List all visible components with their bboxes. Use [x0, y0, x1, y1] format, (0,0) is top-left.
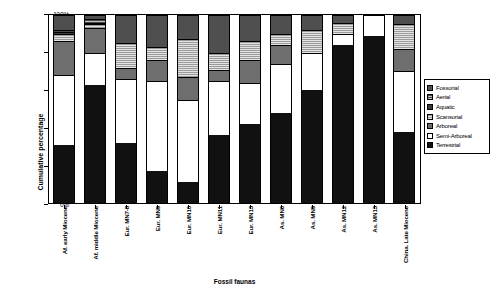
bar-segment[interactable] [147, 81, 167, 171]
bar-segment[interactable] [116, 143, 136, 203]
bar-segment[interactable] [147, 171, 167, 203]
bar-segment[interactable] [85, 19, 105, 23]
stacked-bar[interactable] [115, 15, 137, 203]
bar-segment[interactable] [116, 15, 136, 43]
bar-segment[interactable] [271, 64, 291, 113]
legend-swatch-icon [427, 94, 433, 100]
stacked-bar[interactable] [146, 15, 168, 203]
bar-segment[interactable] [178, 77, 198, 100]
x-axis-tick-label: As. MN9 [309, 206, 316, 229]
bar-segment[interactable] [333, 34, 353, 45]
bar-slot [363, 15, 385, 203]
stacked-bar[interactable] [301, 15, 323, 203]
legend-item[interactable]: Scansorial [427, 112, 486, 122]
stacked-bar[interactable] [53, 15, 75, 203]
bar-segment[interactable] [116, 79, 136, 143]
x-axis-tick-slot: Eur. MN7-8 [115, 206, 137, 274]
legend-label: Semi-Arboreal [436, 133, 472, 139]
bar-segment[interactable] [54, 30, 74, 32]
stacked-bar[interactable] [239, 15, 261, 203]
stacked-bar[interactable] [363, 15, 385, 203]
bar-segment[interactable] [271, 113, 291, 203]
bar-segment[interactable] [302, 53, 322, 91]
legend-item[interactable]: Terrestrial [427, 141, 486, 151]
x-axis-tick-slot: Eur. MN9 [146, 206, 168, 274]
stacked-bar[interactable] [270, 15, 292, 203]
x-axis-tick-label: China. Late Miocene [402, 206, 409, 263]
bar-segment[interactable] [364, 36, 384, 203]
bar-segment[interactable] [333, 45, 353, 203]
bar-segment[interactable] [54, 41, 74, 75]
bar-segment[interactable] [302, 30, 322, 53]
bar-segment[interactable] [394, 15, 414, 24]
bar-segment[interactable] [394, 49, 414, 72]
bar-segment[interactable] [54, 75, 74, 145]
bar-segment[interactable] [302, 15, 322, 30]
plot-area [48, 14, 421, 204]
stacked-bar[interactable] [332, 15, 354, 203]
bar-segment[interactable] [240, 41, 260, 60]
bar-segment[interactable] [116, 43, 136, 67]
bar-segment[interactable] [85, 53, 105, 85]
bar-segment[interactable] [271, 45, 291, 64]
bar-segment[interactable] [333, 23, 353, 34]
bar-segment[interactable] [364, 15, 384, 36]
bar-segment[interactable] [209, 135, 229, 203]
bar-segment[interactable] [209, 81, 229, 136]
stacked-bar[interactable] [393, 15, 415, 203]
x-axis-tick-label: Eur. MN11 [215, 206, 222, 234]
bar-segment[interactable] [209, 15, 229, 53]
bar-segment[interactable] [85, 85, 105, 203]
legend-label: Aquatic [436, 104, 455, 110]
x-axis-tick-slot: China. Late Miocene [394, 206, 416, 274]
bar-segment[interactable] [85, 23, 105, 25]
legend-item[interactable]: Aquatic [427, 102, 486, 112]
bar-segment[interactable] [116, 68, 136, 79]
bar-segment[interactable] [394, 71, 414, 131]
bar-segment[interactable] [54, 32, 74, 34]
bar-slot [115, 15, 137, 203]
legend: FossorialAerialAquaticScansorialArboreal… [424, 79, 490, 154]
bar-segment[interactable] [209, 53, 229, 70]
bar-slot [332, 15, 354, 203]
bar-segment[interactable] [333, 15, 353, 23]
legend-item[interactable]: Aerial [427, 93, 486, 103]
x-axis-tick-label: As. MN13 [371, 206, 378, 233]
bar-segment[interactable] [394, 24, 414, 48]
legend-swatch-icon [427, 114, 433, 120]
bar-segment[interactable] [178, 182, 198, 203]
bar-segment[interactable] [178, 39, 198, 77]
bar-segment[interactable] [147, 47, 167, 60]
legend-item[interactable]: Semi-Arboreal [427, 131, 486, 141]
bar-segment[interactable] [271, 34, 291, 45]
stacked-bar[interactable] [84, 15, 106, 203]
bar-segment[interactable] [178, 100, 198, 183]
bar-segment[interactable] [271, 15, 291, 34]
bar-segment[interactable] [209, 70, 229, 81]
bar-segment[interactable] [85, 24, 105, 28]
legend-item[interactable]: Arboreal [427, 121, 486, 131]
bar-segment[interactable] [85, 15, 105, 19]
stacked-bar[interactable] [208, 15, 230, 203]
legend-swatch-icon [427, 123, 433, 129]
bar-segment[interactable] [240, 124, 260, 203]
bar-segment[interactable] [54, 15, 74, 30]
legend-item[interactable]: Fossorial [427, 83, 486, 93]
stacked-bar[interactable] [177, 15, 199, 203]
bar-segment[interactable] [394, 132, 414, 203]
bar-segment[interactable] [147, 15, 167, 47]
bar-segment[interactable] [240, 15, 260, 41]
bar-segment[interactable] [240, 60, 260, 83]
chart-figure: Cumulative percentage 0%20%40%60%80%100%… [0, 0, 493, 303]
bar-segment[interactable] [54, 145, 74, 203]
bar-slot [393, 15, 415, 203]
bar-segment[interactable] [85, 28, 105, 52]
legend-label: Arboreal [436, 123, 457, 129]
bar-segment[interactable] [147, 60, 167, 81]
bar-segment[interactable] [302, 90, 322, 203]
bar-segment[interactable] [178, 15, 198, 39]
bar-segment[interactable] [240, 83, 260, 124]
x-axis-tick-label: Af. middle Miocene [91, 206, 98, 260]
bar-segment[interactable] [54, 34, 74, 42]
x-axis-tick-label: Eur. MN7-8 [122, 206, 129, 236]
